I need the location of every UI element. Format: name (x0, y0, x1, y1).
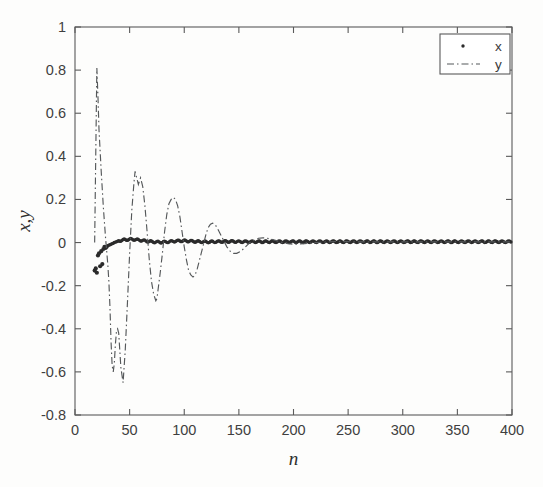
x-axis-tick-group (75, 27, 512, 415)
x-tick-label: 100 (172, 422, 196, 438)
legend-label: x (495, 39, 502, 54)
y-axis-tick-labels: 10.80.60.40.20-0.2-0.4-0.6-0.8 (41, 19, 66, 423)
legend: xy (440, 34, 510, 74)
y-tick-label: 0.6 (46, 105, 66, 121)
x-tick-label: 400 (500, 422, 524, 438)
x-tick-label: 150 (227, 422, 251, 438)
plot-canvas: 050100150200250300350400 10.80.60.40.20-… (0, 0, 543, 487)
y-axis-title: x,y (13, 210, 34, 233)
x-axis-title: n (289, 448, 299, 469)
x-tick-label: 300 (391, 422, 415, 438)
y-tick-label: -0.8 (41, 407, 66, 423)
y-tick-label: -0.6 (41, 364, 66, 380)
x-tick-label: 50 (122, 422, 138, 438)
y-tick-label: 0.2 (46, 191, 66, 207)
x-tick-label: 200 (281, 422, 305, 438)
y-axis-tick-group (75, 27, 512, 415)
data-point (100, 262, 104, 266)
dot-marker (461, 44, 464, 47)
data-point (95, 271, 99, 275)
y-tick-label: 0 (58, 235, 66, 251)
x-tick-label: 350 (445, 422, 469, 438)
x-axis-tick-labels: 050100150200250300350400 (71, 422, 524, 438)
x-tick-label: 250 (336, 422, 360, 438)
data-point (94, 266, 98, 270)
y-tick-label: 0.4 (46, 148, 66, 164)
axes-frame (75, 27, 512, 415)
y-tick-label: -0.4 (41, 321, 66, 337)
series-y-line (95, 68, 512, 383)
y-tick-label: 1 (58, 19, 66, 35)
data-series-layer (93, 68, 513, 383)
axes-frame-group (75, 27, 512, 415)
x-tick-label: 0 (71, 422, 79, 438)
chart-figure: 050100150200250300350400 10.80.60.40.20-… (0, 0, 543, 487)
y-tick-label: 0.8 (46, 62, 66, 78)
y-tick-label: -0.2 (41, 278, 66, 294)
legend-label: y (495, 57, 502, 72)
